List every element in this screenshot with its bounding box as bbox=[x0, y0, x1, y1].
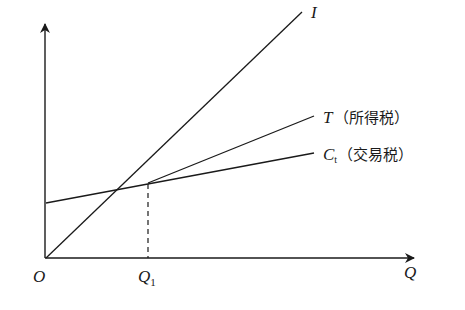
q1-label: Q1 bbox=[138, 267, 156, 288]
line-Ct-label: Ct bbox=[323, 145, 337, 165]
diagram-canvas: O Q1 Q I T （所得税） Ct （交易税） bbox=[0, 0, 465, 310]
line-I-label: I bbox=[310, 3, 318, 22]
line-Ct bbox=[46, 153, 314, 203]
x-axis-label: Q bbox=[404, 263, 416, 282]
line-T bbox=[148, 116, 314, 183]
line-T-label: T bbox=[323, 108, 334, 127]
q1-subscript: 1 bbox=[150, 276, 156, 288]
line-Ct-subscript: t bbox=[334, 154, 337, 165]
line-I bbox=[46, 12, 302, 258]
line-Ct-note: （交易税） bbox=[338, 146, 413, 164]
line-T-note: （所得税） bbox=[334, 109, 409, 127]
origin-label: O bbox=[33, 267, 45, 286]
